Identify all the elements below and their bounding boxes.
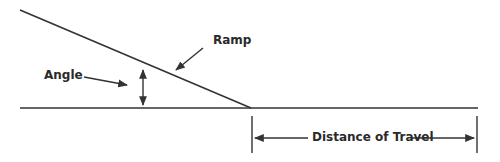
- angle-label: Angle: [44, 68, 83, 82]
- angle-pointer-arrow: [84, 77, 127, 85]
- distance-label: Distance of Travel: [312, 130, 434, 144]
- ramp-line: [20, 10, 251, 108]
- ramp-pointer-arrow: [176, 48, 203, 70]
- ramp-label: Ramp: [213, 33, 252, 47]
- ramp-diagram: Angle Ramp Distance of Travel: [0, 0, 500, 162]
